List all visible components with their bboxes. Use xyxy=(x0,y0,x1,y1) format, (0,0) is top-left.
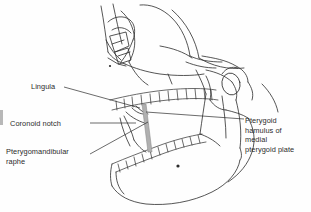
page-edge-artifact xyxy=(0,110,3,125)
coronoid-notch-structure xyxy=(120,116,146,152)
maxilla-zygomatic xyxy=(125,46,216,85)
label-coronoid-notch: Coronoid notch xyxy=(10,119,61,129)
anatomy-figure: Lingula Coronoid notch Pterygomandibular… xyxy=(0,0,311,212)
mandibular-ramus xyxy=(200,94,248,148)
label-pterygomandibular-raphe: Pterygomandibular raphe xyxy=(6,147,92,166)
label-lingula: Lingula xyxy=(31,82,55,92)
pterygomandibular-raphe-band xyxy=(142,104,152,152)
leader-line-pterygoid-hamulus xyxy=(146,112,244,119)
upper-teeth-row xyxy=(110,89,218,111)
skull-mandible-illustration xyxy=(0,0,311,212)
leader-line-lingula xyxy=(64,87,140,108)
cranium-outline xyxy=(101,4,244,69)
leader-line-pterygomandibular-raphe xyxy=(90,122,148,154)
mandible-body xyxy=(111,134,242,205)
lower-teeth-row xyxy=(112,134,206,172)
leader-lines xyxy=(64,87,244,154)
label-pterygoid-hamulus: Pterygoid hamulus of medial pterygoid pl… xyxy=(245,116,311,154)
